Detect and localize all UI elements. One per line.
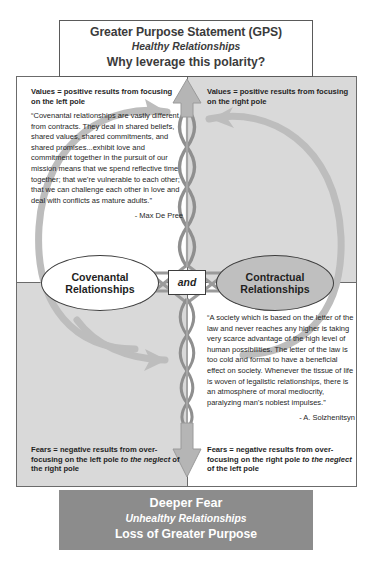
quadrant-upper-right [187,77,357,282]
left-quote-block: “Covenantal relationships are vastly dif… [31,111,183,222]
gps-question: Why leverage this polarity? [60,54,312,70]
left-quote-attribution: - Max De Pree [31,211,183,222]
pole-left-covenantal: Covenantal Relationships [41,255,159,311]
lower-right-fears-emphasis: to the neglect [302,455,351,464]
right-quote-attribution: - A. Solzhenitsyn [207,413,355,424]
gps-title: Greater Purpose Statement (GPS) [60,25,312,40]
deeper-fear-loss: Loss of Greater Purpose [59,526,313,542]
upper-left-values-label: Values = positive results from focusing … [31,87,183,106]
lower-left-fears-label: Fears = negative results from over-focus… [31,445,183,474]
deeper-fear-title: Deeper Fear [59,495,313,511]
polarity-map-frame: Values = positive results from focusing … [16,76,357,487]
deeper-fear-subtitle: Unhealthy Relationships [59,511,313,526]
right-quote-block: “A society which is based on the letter … [207,313,355,424]
upper-right-values-label: Values = positive results from focusing … [207,87,357,106]
gps-subtitle: Healthy Relationships [60,40,312,54]
lower-left-fears-emphasis: to the neglect [121,455,170,464]
and-label: and [178,277,196,288]
pole-right-contractual: Contractual Relationships [216,255,334,311]
and-connector-box: and [168,270,206,295]
pole-left-label: Covenantal Relationships [42,271,158,296]
lower-right-fears-label: Fears = negative results from over-focus… [207,445,357,474]
deeper-fear-box: Deeper Fear Unhealthy Relationships Loss… [59,490,313,550]
lower-right-fears-text-b: of the left pole [207,464,259,473]
polarity-map-page: Greater Purpose Statement (GPS) Healthy … [0,0,373,564]
right-quote-text: “A society which is based on the letter … [207,313,355,408]
left-quote-text: “Covenantal relationships are vastly dif… [31,111,183,206]
greater-purpose-statement-box: Greater Purpose Statement (GPS) Healthy … [59,20,313,77]
pole-right-label: Contractual Relationships [217,271,333,296]
